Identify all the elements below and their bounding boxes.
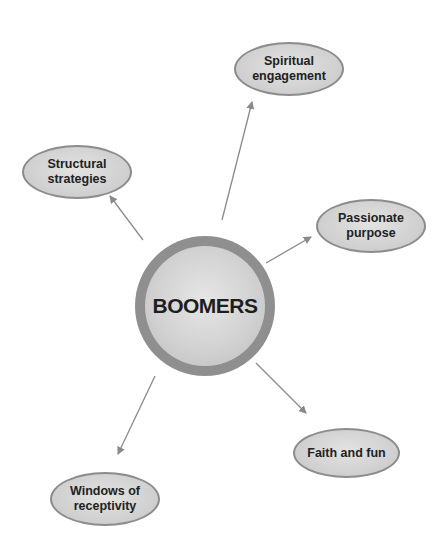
node-structural-strategies: Structural strategies	[22, 145, 132, 199]
arrow-to-spiritual	[222, 102, 252, 220]
node-windows-of-receptivity: Windows of receptivity	[50, 472, 160, 526]
node-label: Passionate purpose	[338, 211, 404, 241]
center-node-boomers: BOOMERS	[135, 236, 275, 376]
node-passionate-purpose: Passionate purpose	[316, 199, 426, 253]
arrow-to-faith	[256, 363, 306, 413]
node-label: Windows of receptivity	[70, 484, 140, 514]
center-label: BOOMERS	[152, 294, 257, 318]
node-spiritual-engagement: Spiritual engagement	[234, 42, 344, 96]
node-label: Structural strategies	[47, 157, 106, 187]
node-label: Faith and fun	[307, 446, 385, 461]
arrow-to-structural	[110, 196, 143, 240]
center-node-inner: BOOMERS	[145, 246, 265, 366]
arrow-to-passionate	[266, 237, 311, 263]
node-faith-and-fun: Faith and fun	[293, 428, 400, 478]
arrow-to-windows	[118, 376, 155, 454]
node-label: Spiritual engagement	[252, 54, 326, 84]
